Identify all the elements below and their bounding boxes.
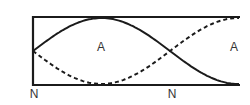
node-label-left: N	[26, 87, 42, 101]
node-label-middle: N	[164, 87, 180, 101]
antinode-label-center: A	[93, 40, 109, 54]
antinode-label-right: A	[226, 40, 242, 54]
standing-wave-diagram: A A N N	[0, 0, 250, 105]
